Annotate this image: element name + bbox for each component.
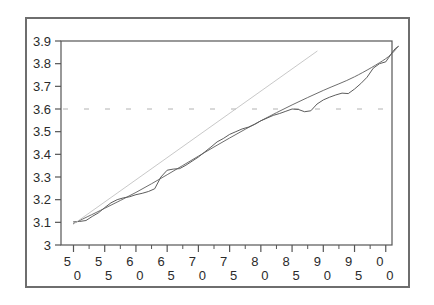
y-tick-label: 3.4: [33, 147, 51, 162]
y-tick-label: 3.8: [33, 56, 51, 71]
x-tick-label-upper: 7: [220, 254, 227, 269]
x-tick-label-lower: 0: [199, 268, 206, 283]
y-tick-label: 3: [44, 238, 51, 253]
x-axis-labels: 5055606570758085909500: [64, 254, 393, 283]
y-tick-label: 3.5: [33, 124, 51, 139]
y-axis-labels: 33.13.23.33.43.53.63.73.83.9: [33, 34, 51, 253]
line-chart-figure: 33.13.23.33.43.53.63.73.83.9 50556065707…: [0, 0, 434, 305]
x-axis-ticks: [73, 245, 385, 252]
x-tick-label-lower: 0: [74, 268, 81, 283]
x-tick-label-lower: 0: [386, 268, 393, 283]
series-linear-trend-extrapolation: [73, 51, 317, 224]
chart-series-layer: [73, 46, 398, 224]
x-tick-label-upper: 8: [251, 254, 258, 269]
y-tick-label: 3.7: [33, 79, 51, 94]
y-tick-label: 3.6: [33, 102, 51, 117]
x-tick-label-upper: 0: [376, 254, 383, 269]
y-tick-label: 3.1: [33, 215, 51, 230]
x-tick-label-upper: 9: [345, 254, 352, 269]
x-tick-label-upper: 5: [95, 254, 102, 269]
series-smoothed-trend: [73, 46, 398, 223]
chart-page: 33.13.23.33.43.53.63.73.83.9 50556065707…: [0, 0, 434, 305]
x-tick-label-upper: 6: [158, 254, 165, 269]
x-tick-label-lower: 0: [136, 268, 143, 283]
x-tick-label-upper: 6: [126, 254, 133, 269]
x-tick-label-lower: 0: [324, 268, 331, 283]
x-tick-label-lower: 0: [261, 268, 268, 283]
x-tick-label-upper: 7: [189, 254, 196, 269]
x-tick-label-lower: 5: [355, 268, 362, 283]
x-tick-label-lower: 5: [168, 268, 175, 283]
x-tick-label-lower: 5: [230, 268, 237, 283]
x-tick-label-upper: 8: [282, 254, 289, 269]
x-tick-label-lower: 5: [105, 268, 112, 283]
y-tick-label: 3.2: [33, 192, 51, 207]
x-tick-label-upper: 5: [64, 254, 71, 269]
y-tick-label: 3.3: [33, 170, 51, 185]
x-tick-label-upper: 9: [314, 254, 321, 269]
x-tick-label-lower: 5: [292, 268, 299, 283]
y-axis-ticks: [55, 41, 61, 245]
plot-frame: [61, 41, 392, 245]
y-tick-label: 3.9: [33, 34, 51, 49]
